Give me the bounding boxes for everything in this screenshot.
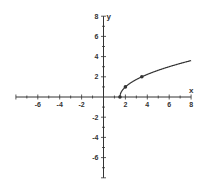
- x-tick-label: 2: [123, 101, 127, 108]
- y-axis-label: y: [107, 12, 112, 21]
- x-tick-label: 8: [189, 101, 193, 108]
- x-tick-label: 4: [145, 101, 149, 108]
- y-tick-label: 6: [95, 33, 99, 40]
- y-tick-label: 4: [95, 53, 99, 60]
- marked-points: [118, 75, 144, 99]
- x-tick-label: -2: [78, 101, 84, 108]
- axes: [16, 16, 191, 178]
- y-tick-label: 8: [95, 13, 99, 20]
- y-tick-label: 2: [95, 73, 99, 80]
- x-tick-label: -4: [57, 101, 63, 108]
- point-marker: [140, 75, 144, 79]
- x-tick-label: -6: [35, 101, 41, 108]
- x-tick-label: 6: [167, 101, 171, 108]
- tick-labels: -6-4-224688642-2-4-6: [35, 13, 193, 161]
- y-tick-label: -4: [92, 134, 98, 141]
- y-tick-label: -6: [92, 154, 98, 161]
- function-graph: -6-4-224688642-2-4-6 x y: [0, 0, 202, 189]
- point-marker: [118, 95, 122, 99]
- point-marker: [124, 85, 128, 89]
- x-axis-label: x: [189, 86, 194, 95]
- y-tick-label: -2: [92, 114, 98, 121]
- function-curve: [120, 61, 191, 97]
